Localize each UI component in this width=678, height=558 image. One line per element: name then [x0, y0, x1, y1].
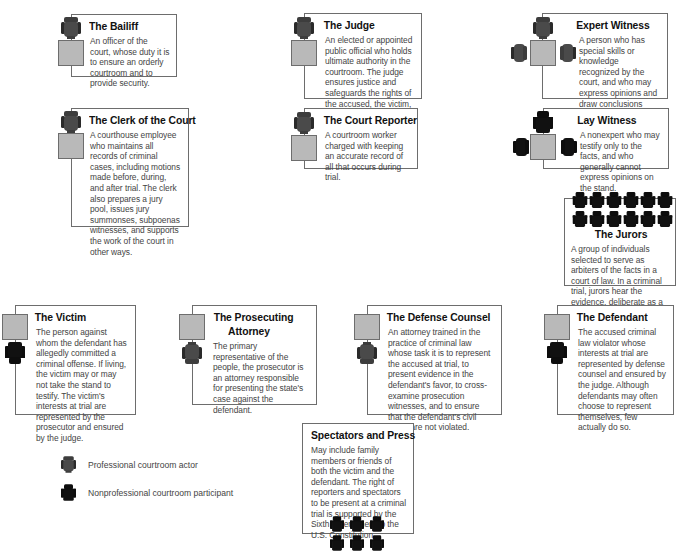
clerk-description: A courthouse employee who maintains all …: [80, 130, 182, 257]
defendant-description: The accused criminal law violator whose …: [566, 327, 667, 433]
victim-card: The Victim The person against whom the d…: [15, 305, 136, 415]
expert-witness-stand: [530, 40, 556, 66]
nonprofessional-chair-icon: [623, 192, 639, 208]
clerk-title: The Clerk of the Court: [80, 113, 172, 127]
lay-witness-stand: [530, 134, 556, 160]
professional-chair-icon: [61, 111, 81, 133]
victim-desk: [2, 314, 28, 340]
court-reporter-card: The Court Reporter A courtroom worker ch…: [304, 108, 418, 169]
professional-chair-icon: [533, 17, 553, 39]
professional-chair-icon: [357, 342, 377, 364]
legend-professional-label: Professional courtroom actor: [88, 460, 198, 470]
nonprofessional-chair-icon: [657, 192, 673, 208]
bailiff-desk: [58, 40, 84, 66]
nonprofessional-chair-icon: [589, 211, 605, 227]
nonprofessional-chair-icon: [640, 192, 656, 208]
nonprofessional-chair-icon: [623, 211, 639, 227]
defendant-card: The Defendant The accused criminal law v…: [557, 305, 674, 415]
court-reporter-description: A courtroom worker charged with keeping …: [313, 130, 411, 183]
professional-chair-icon: [61, 17, 81, 39]
victim-description: The person against whom the defendant ha…: [24, 327, 129, 444]
legend-nonprofessional-label: Nonprofessional courtroom participant: [88, 488, 233, 498]
defense-table: [354, 314, 380, 340]
nonprofessional-chair-icon: [572, 211, 588, 227]
nonprofessional-chair-icon: [5, 342, 25, 364]
judge-title: The Judge: [313, 18, 405, 32]
victim-title: The Victim: [24, 310, 119, 324]
defendant-title: The Defendant: [566, 310, 657, 324]
court-reporter-title: The Court Reporter: [313, 113, 401, 127]
prosecution-table: [179, 314, 205, 340]
defense-card: The Defense Counsel An attorney trained …: [367, 305, 502, 415]
nonprofessional-chair-icon: [350, 516, 364, 532]
legend-nonprofessional: Nonprofessional courtroom participant: [61, 484, 233, 501]
professional-chair-icon: [294, 17, 314, 39]
nonprofessional-chair-icon: [350, 535, 364, 551]
bailiff-title: The Bailiff: [80, 19, 161, 33]
nonprofessional-chair-icon: [640, 211, 656, 227]
nonprofessional-chair-icon: [589, 192, 605, 208]
judge-desk: [291, 40, 317, 66]
bailiff-card: The Bailiff An officer of the court, who…: [71, 14, 177, 77]
nonprofessional-chair-icon: [61, 484, 76, 501]
spectator-seating: [330, 516, 384, 551]
professional-chair-icon: [294, 112, 314, 134]
nonprofessional-chair-icon: [606, 192, 622, 208]
defense-description: An attorney trained in the practice of c…: [376, 327, 495, 433]
nonprofessional-chair-icon: [370, 535, 384, 551]
professional-side-chair-icon: [560, 44, 576, 62]
nonprofessional-chair-icon: [370, 516, 384, 532]
nonprofessional-chair-icon: [657, 211, 673, 227]
nonprofessional-chair-icon: [547, 342, 567, 364]
prosecutor-title-line1: The Prosecuting: [214, 310, 305, 324]
defendant-desk: [544, 314, 570, 340]
professional-chair-icon: [182, 342, 202, 364]
prosecutor-title: The Prosecuting Attorney: [206, 310, 304, 338]
legend-professional: Professional courtroom actor: [61, 456, 198, 473]
spectators-title: Spectators and Press: [311, 428, 397, 442]
clerk-desk: [58, 133, 84, 159]
expert-witness-title: Expert Witness: [551, 18, 650, 32]
nonprofessional-chair-icon: [330, 535, 344, 551]
prosecutor-card: The Prosecuting Attorney The primary rep…: [192, 305, 317, 405]
prosecutor-description: The primary representative of the people…: [201, 341, 310, 415]
nonprofessional-chair-icon: [330, 516, 344, 532]
professional-chair-icon: [61, 456, 76, 473]
jurors-title: The Jurors: [576, 227, 666, 241]
nonprofessional-chair-icon: [533, 111, 553, 133]
defense-title: The Defense Counsel: [376, 310, 483, 324]
judge-card: The Judge An elected or appointed public…: [304, 13, 422, 99]
clerk-card: The Clerk of the Court A courthouse empl…: [71, 108, 189, 227]
nonprofessional-chair-icon: [606, 211, 622, 227]
juror-box: [572, 192, 673, 227]
lay-witness-title: Lay Witness: [552, 113, 651, 127]
nonprofessional-side-chair-icon: [561, 138, 577, 156]
nonprofessional-chair-icon: [572, 192, 588, 208]
court-reporter-desk: [291, 135, 317, 161]
nonprofessional-side-chair-icon: [513, 138, 529, 156]
bailiff-description: An officer of the court, whose duty it i…: [80, 36, 170, 89]
prosecutor-title-line2: Attorney: [214, 324, 305, 338]
professional-side-chair-icon: [511, 44, 527, 62]
